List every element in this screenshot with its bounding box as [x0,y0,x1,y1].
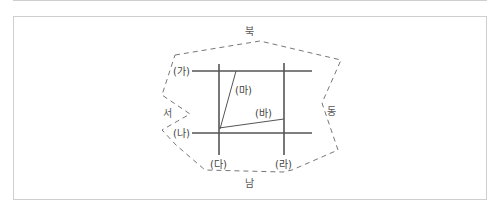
region-boundary [162,41,341,172]
label-da: (다) [210,159,227,170]
label-ga: (가) [173,66,190,77]
direction-north: 북 [245,26,254,37]
direction-south: 남 [245,178,254,189]
label-ba: (바) [255,108,272,119]
direction-west: 서 [163,108,172,119]
label-na: (나) [173,128,190,139]
direction-east: 동 [327,106,336,117]
line-ba [219,119,284,128]
label-ra: (라) [275,159,292,170]
map-diagram: (가) (나) (다) (라) (마) (바) 북 남 동 서 [0,0,501,215]
line-ma [220,71,236,129]
label-ma: (마) [235,85,252,96]
